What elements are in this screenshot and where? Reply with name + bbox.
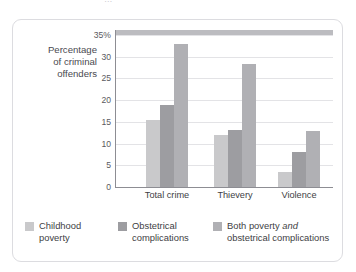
legend-label-emphasis: and [282,220,298,231]
bar [160,105,174,188]
legend-color-swatch [118,222,127,231]
y-axis-title: Percentage of criminal offenders [19,44,97,81]
y-axis-tick-label: 20 [101,95,111,105]
bar [278,172,292,187]
plot-area: 05101520253035% Total crimeThieveryViole… [115,30,333,188]
y-axis-tick-label: 15 [101,117,111,127]
legend-item[interactable]: Obstetricalcomplications [118,220,213,245]
chart-legend: ChildhoodpovertyObstetricalcomplications… [13,216,344,260]
legend-label: Childhoodpoverty [39,220,81,245]
x-axis-category-label: Violence [281,190,316,200]
legend-label: Obstetricalcomplications [132,220,189,245]
y-axis-title-line-3: offenders [19,68,97,80]
bar [242,64,256,187]
bar [174,44,188,187]
y-axis-tick-label: 25 [101,73,111,83]
legend-label: Both poverty andobstetrical complication… [227,220,329,245]
x-axis-line [115,187,333,188]
bar [306,131,320,187]
legend-item[interactable]: Both poverty andobstetrical complication… [213,220,341,245]
bar [292,152,306,187]
y-axis-tick-label: 5 [106,160,111,170]
y-axis-tick-label: 30 [101,52,111,62]
x-axis-category-label: Total crime [145,190,189,200]
cut-off-caption-text: … [104,0,113,4]
legend-color-swatch [213,222,222,231]
bar-group [214,35,256,187]
y-axis-title-line-1: Percentage [19,44,97,56]
chart-card: Percentage of criminal offenders 0510152… [12,19,343,262]
y-axis-title-line-2: of criminal [19,56,97,68]
legend-color-swatch [25,222,34,231]
bar-chart: Percentage of criminal offenders 0510152… [13,20,344,212]
bar [146,120,160,187]
y-axis-tick-label: 10 [101,139,111,149]
bar-group [146,35,188,187]
bar [228,130,242,187]
y-axis-tick-label: 0 [106,182,111,192]
legend-item[interactable]: Childhoodpoverty [25,220,105,245]
y-axis-tick-label: 35% [94,30,111,40]
cut-off-caption-sliver: … [0,0,356,11]
x-axis-category-label: Thievery [217,190,252,200]
bar [214,135,228,187]
bar-group [278,35,320,187]
